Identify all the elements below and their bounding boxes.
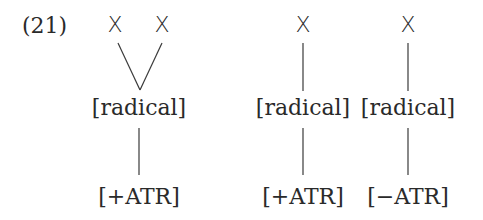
radical-node: [radical] (361, 97, 455, 119)
association-line-1b (140, 43, 162, 90)
timing-slot-x: X (107, 14, 122, 36)
timing-slot-x: X (400, 14, 415, 36)
autosegmental-diagram: (21) X X [radical] [+ATR] X [radical] [+… (0, 0, 483, 220)
radical-node: [radical] (256, 97, 350, 119)
timing-slot-x: X (154, 14, 169, 36)
atr-feature: [+ATR] (98, 186, 180, 208)
atr-feature: [−ATR] (367, 186, 449, 208)
timing-slot-x: X (295, 14, 310, 36)
association-line-1a (118, 43, 140, 90)
example-number: (21) (22, 15, 67, 37)
atr-feature: [+ATR] (262, 186, 344, 208)
radical-node: [radical] (92, 97, 186, 119)
